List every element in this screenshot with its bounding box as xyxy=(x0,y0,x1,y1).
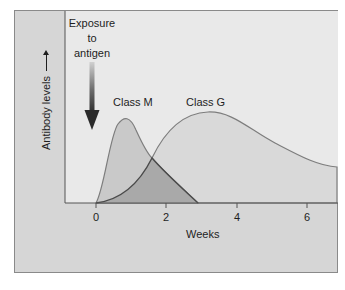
x-tick-label-6: 6 xyxy=(304,211,310,223)
up-arrow-icon xyxy=(46,53,47,71)
exposure-annotation: Exposure to antigen xyxy=(67,16,117,61)
x-tick-label-4: 4 xyxy=(234,211,240,223)
x-tick-label-0: 0 xyxy=(93,211,99,223)
class-g-label: Class G xyxy=(186,96,225,108)
annotation-line-3: antigen xyxy=(67,46,117,61)
annotation-line-2: to xyxy=(67,31,117,46)
x-axis-label: Weeks xyxy=(186,228,219,240)
exposure-arrow-icon xyxy=(85,62,100,130)
annotation-line-1: Exposure xyxy=(67,16,117,31)
y-axis-label-text: Antibody levels xyxy=(40,76,52,150)
x-ticks xyxy=(96,203,307,208)
x-tick-label-2: 2 xyxy=(163,211,169,223)
y-axis-label: Antibody levels xyxy=(40,53,52,150)
class-m-label: Class M xyxy=(113,96,153,108)
